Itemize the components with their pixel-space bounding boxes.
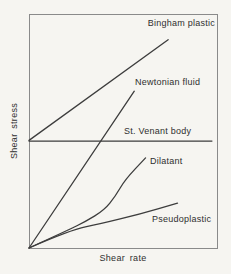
curve-label-dilatant: Dilatant: [150, 156, 183, 166]
curve-label-bingham-plastic: Bingham plastic: [148, 18, 215, 28]
plot-canvas: [0, 0, 231, 274]
curve-dilatant: [29, 158, 146, 248]
curve-label-pseudoplastic: Pseudoplastic: [152, 214, 211, 224]
curve-newtonian-fluid: [29, 91, 134, 248]
rheology-diagram: Bingham plastic Newtonian fluid St. Vena…: [0, 0, 231, 274]
x-axis-label: Shear rate: [99, 253, 146, 263]
curve-label-newtonian-fluid: Newtonian fluid: [135, 77, 200, 87]
curve-label-st-venant-body: St. Venant body: [124, 126, 191, 136]
y-axis-label: Shear stress: [9, 103, 19, 159]
